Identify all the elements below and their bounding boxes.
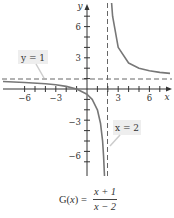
callout-label-y1: y = 1 [20,53,45,63]
y-tick-label: 6 [76,22,81,32]
y-tick-label: −6 [68,151,81,161]
x-tick-label: 3 [115,93,120,103]
callout-pointer-x2 [110,135,120,146]
x-tick-label: 6 [147,93,152,103]
x-axis-arrow-icon [166,87,172,92]
curve-right-branch [112,3,170,73]
y-axis-label: y [76,1,83,11]
equals-sign: = [81,194,87,205]
function-caption: G(x) = x + 1 x − 2 [0,186,174,218]
fraction: x + 1 x − 2 [93,186,117,213]
y-axis-arrow-icon [85,4,90,10]
callout-pointer-y1 [36,64,44,78]
numerator: x + 1 [93,186,117,198]
fraction-bar [93,199,117,200]
y-tick-label: 3 [76,53,81,63]
x-tick-label: −3 [50,93,63,103]
function-name: G(x) [59,194,78,205]
y-tick-label: −3 [68,117,81,127]
graph-of-G: −6 −3 3 6 6 3 −3 −6 x y y = 1 x = 2 G(x)… [0,0,174,218]
denominator: x − 2 [93,201,117,213]
x-tick-label: −6 [18,93,31,103]
callout-label-x2: x = 2 [115,123,139,133]
x-axis-label: x [164,92,169,102]
